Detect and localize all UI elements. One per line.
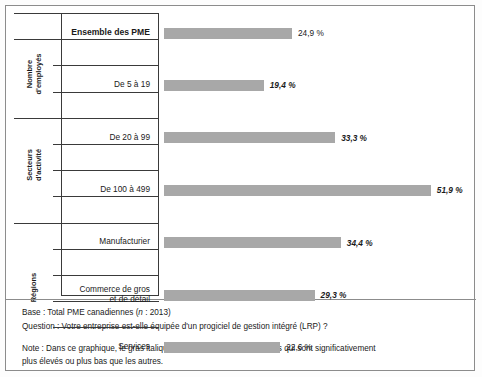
bar — [164, 290, 315, 301]
row-separator — [14, 13, 159, 14]
bar-value-label: 29,3 % — [321, 290, 347, 300]
bar-value-label: 34,4 % — [347, 238, 373, 248]
row-separator — [53, 327, 159, 328]
row-label-de-100-499: De 100 à 499 — [63, 185, 155, 195]
group-label-line: Régions — [30, 273, 39, 303]
bar-value-label: 19,4 % — [270, 80, 296, 90]
row-label-services: Services — [63, 342, 155, 352]
row-separator — [14, 118, 159, 119]
bar — [164, 185, 431, 196]
footnote-base: Base : Total PME canadiennes (n : 2013) — [22, 306, 462, 319]
footnote-note-line2: plus élevés ou plus bas que les autres. — [22, 355, 462, 368]
bar — [164, 342, 280, 353]
row-label-line: et de détail — [109, 294, 150, 304]
row-separator — [53, 196, 159, 197]
chart-outer-frame: Ensemble des PME24,9 %De 5 à 1919,4 %De … — [5, 5, 475, 371]
row-label-line: De 5 à 19 — [114, 79, 150, 89]
row-separator — [14, 223, 159, 224]
group-label-text: Secteursd'activité — [25, 149, 43, 181]
row-separator — [14, 39, 159, 40]
bar — [164, 80, 264, 91]
group-label-line: Secteurs — [25, 149, 34, 181]
bar — [164, 132, 335, 143]
group-label-text: Régions — [30, 273, 39, 303]
group-label-line: d'employés — [34, 53, 43, 94]
bar-value-label: 33,3 % — [341, 133, 367, 143]
figure-container: Ensemble des PME24,9 %De 5 à 1919,4 %De … — [0, 0, 482, 377]
row-label-line: De 100 à 499 — [100, 184, 150, 194]
row-label-line: Commerce de gros — [79, 284, 150, 294]
row-label-line: De 20 à 99 — [109, 132, 150, 142]
bar — [164, 28, 292, 39]
row-separator — [53, 170, 159, 171]
row-separator — [53, 249, 159, 250]
group-label-line: Nombre — [25, 59, 34, 87]
row-label-line: Services — [118, 341, 150, 351]
chart-plot-area: Ensemble des PME24,9 %De 5 à 1919,4 %De … — [6, 6, 476, 296]
group-label-text: Nombred'employés — [25, 53, 43, 94]
row-separator — [53, 275, 159, 276]
bar-value-label: 51,9 % — [437, 185, 463, 195]
row-label-ensemble-des-pme: Ensemble des PME — [63, 28, 155, 38]
bar — [164, 237, 341, 248]
row-label-line: Ensemble des PME — [71, 27, 150, 37]
row-separator — [53, 92, 159, 93]
footnote-base-prefix: Base : Total PME canadiennes ( — [22, 308, 138, 317]
footnote-base-suffix: : 2013) — [143, 308, 171, 317]
group-label-line: d'activité — [34, 149, 43, 181]
row-separator — [53, 65, 159, 66]
row-label-de-5-19: De 5 à 19 — [63, 80, 155, 90]
bar-value-label: 24,9 % — [298, 28, 324, 38]
row-label-line: Manufacturier — [99, 236, 150, 246]
row-label-commerce-de-gros-et-de-d-tail: Commerce de groset de détail — [63, 285, 155, 304]
chart-footnotes: Base : Total PME canadiennes (n : 2013) … — [22, 306, 462, 368]
category-label-box — [61, 13, 159, 296]
row-label-de-20-99: De 20 à 99 — [63, 133, 155, 143]
bar-value-label: 22,6 % — [286, 342, 312, 352]
row-label-manufacturier: Manufacturier — [63, 237, 155, 247]
row-separator — [53, 144, 159, 145]
group-label-nombre-d-employ-s: Nombred'employés — [6, 49, 62, 109]
